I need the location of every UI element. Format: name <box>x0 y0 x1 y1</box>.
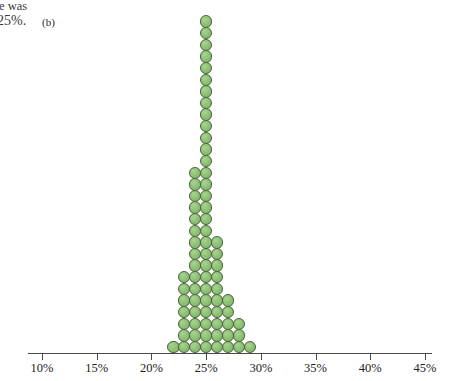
data-dot <box>200 201 212 213</box>
data-dot <box>244 341 256 353</box>
data-dot <box>200 50 212 62</box>
data-dot <box>222 294 234 306</box>
x-axis-tick-label: 45% <box>400 361 449 376</box>
data-dot <box>200 178 212 190</box>
x-axis-tick-15 <box>97 353 98 360</box>
data-dot <box>200 39 212 51</box>
dot-plot: 10%15%20%25%30%35%40%45% <box>0 0 449 381</box>
data-dot <box>200 225 212 237</box>
x-axis-tick-35 <box>316 353 317 360</box>
x-axis-tick-40 <box>370 353 371 360</box>
data-dot <box>200 62 212 74</box>
x-axis-tick-10 <box>42 353 43 360</box>
data-dot <box>200 108 212 120</box>
x-axis-line <box>28 353 432 354</box>
x-axis-tick-label: 35% <box>291 361 341 376</box>
data-dot <box>200 190 212 202</box>
data-dot <box>211 283 223 295</box>
data-dot <box>200 120 212 132</box>
x-axis-tick-label: 10% <box>17 361 67 376</box>
data-dot <box>211 236 223 248</box>
figure-panel: e was 25%. (b) 10%15%20%25%30%35%40%45% <box>0 0 449 381</box>
data-dot <box>200 132 212 144</box>
data-dot <box>200 74 212 86</box>
data-dot <box>200 85 212 97</box>
data-dot <box>222 306 234 318</box>
x-axis-tick-30 <box>261 353 262 360</box>
data-dot <box>200 167 212 179</box>
x-axis-tick-label: 20% <box>126 361 176 376</box>
data-dot <box>211 271 223 283</box>
x-axis-tick-label: 25% <box>181 361 231 376</box>
x-axis-tick-20 <box>151 353 152 360</box>
data-dot <box>200 15 212 27</box>
data-dot <box>233 318 245 330</box>
x-axis-tick-25 <box>206 353 207 360</box>
data-dot <box>200 155 212 167</box>
data-dot <box>211 248 223 260</box>
data-dot <box>200 27 212 39</box>
x-axis-tick-label: 30% <box>236 361 286 376</box>
x-axis-tick-45 <box>425 353 426 360</box>
x-axis-tick-label: 40% <box>345 361 395 376</box>
data-dot <box>211 259 223 271</box>
data-dot <box>200 97 212 109</box>
data-dot <box>200 213 212 225</box>
x-axis-tick-label: 15% <box>72 361 122 376</box>
data-dot <box>233 329 245 341</box>
data-dot <box>200 143 212 155</box>
